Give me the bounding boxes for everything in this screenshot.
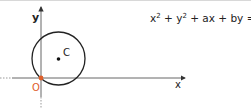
origin-point	[39, 76, 44, 81]
circle-equation: x2 + y2 + ax + by = 0	[150, 12, 251, 24]
circle-diagram: y C O x x2 + y2 + ax + by = 0	[0, 0, 251, 108]
center-label: C	[63, 47, 70, 58]
origin-label: O	[32, 82, 40, 93]
y-axis-label: y	[32, 11, 39, 24]
center-point	[57, 57, 61, 61]
x-axis-label: x	[175, 79, 181, 90]
